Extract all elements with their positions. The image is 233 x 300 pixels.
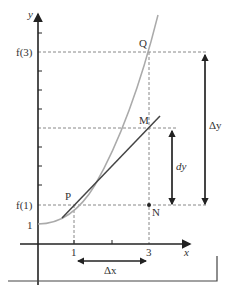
point-p-label: P (65, 190, 71, 202)
point-m-label: M (139, 114, 149, 126)
axes (20, 14, 190, 285)
x-axis-label: x (183, 246, 189, 258)
y-tick-1: 1 (27, 219, 33, 231)
point-n-label: N (152, 206, 160, 218)
guide-lines (38, 52, 208, 244)
derivative-diagram: y x f(3) f(1) 1 1 3 P Q M N dy Δy Δx (0, 0, 233, 300)
dy-label: dy (176, 160, 187, 172)
y-axis-label: y (27, 8, 33, 20)
x-tick-1: 1 (71, 246, 77, 258)
x-tick-3: 3 (146, 246, 152, 258)
delta-x-label: Δx (104, 264, 117, 276)
point-n-marker (147, 203, 151, 207)
y-tick-f1: f(1) (16, 199, 33, 212)
tangent-line (62, 116, 160, 218)
delta-y-label: Δy (209, 119, 222, 131)
y-tick-f3: f(3) (16, 46, 33, 59)
point-q-label: Q (139, 37, 147, 49)
